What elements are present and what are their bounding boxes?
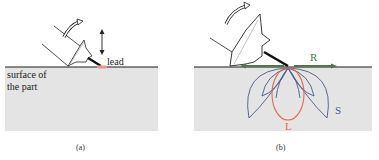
panel-a: lead surface of the part (a) <box>5 19 158 152</box>
lead-contact-point <box>97 65 107 69</box>
diagram-canvas: lead surface of the part (a) <box>0 0 379 160</box>
panel-b: R S L (b) <box>194 2 372 152</box>
vertical-double-arrow-icon <box>100 29 105 55</box>
caption-b: (b) <box>276 143 286 152</box>
longitudinal-label: L <box>285 120 292 132</box>
surface-label-line2: the part <box>7 81 37 92</box>
ultrasonic-probe-icon <box>42 26 101 66</box>
surface-label-line1: surface of <box>7 69 47 80</box>
rayleigh-label: R <box>310 51 318 63</box>
shear-label: S <box>335 104 341 116</box>
lead-label: lead <box>107 56 124 67</box>
ultrasonic-probe-icon <box>210 14 288 66</box>
caption-a: (a) <box>76 143 85 152</box>
curved-rotation-arrow-icon <box>226 2 250 24</box>
curved-rotation-arrow-icon <box>64 19 83 37</box>
